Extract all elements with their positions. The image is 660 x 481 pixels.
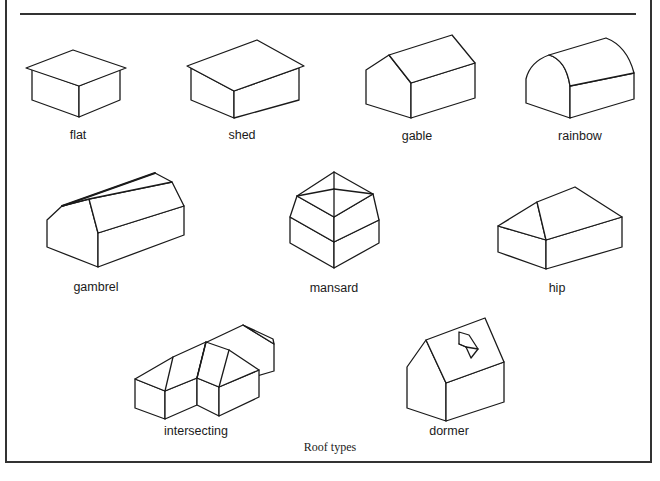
figure-caption: Roof types [304,440,356,455]
label-dormer: dormer [429,424,469,438]
roof-drawings [0,0,660,481]
shed-roof-drawing [187,40,304,118]
hip-roof-drawing [498,187,622,269]
label-intersecting: intersecting [164,424,228,438]
label-mansard: mansard [310,281,359,295]
dormer-roof-drawing [407,318,504,421]
label-flat: flat [70,128,87,142]
label-shed: shed [228,128,255,142]
mansard-roof-drawing [290,172,379,268]
roof-types-figure: flat shed gable rainbow gambrel mansard … [0,0,660,481]
label-rainbow: rainbow [558,129,602,143]
label-gambrel: gambrel [73,280,118,294]
label-gable: gable [402,129,433,143]
label-hip: hip [549,281,566,295]
rainbow-roof-drawing [526,38,634,118]
gambrel-roof-drawing [47,173,184,267]
gable-roof-drawing [366,35,475,118]
intersecting-roof-drawing [135,325,274,419]
flat-roof-drawing [26,50,126,117]
